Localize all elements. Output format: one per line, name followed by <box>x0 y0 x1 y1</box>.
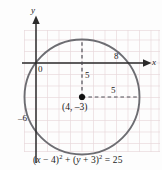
eq-plus: + <box>62 155 72 165</box>
center-coordinate-label: (4, –3) <box>62 103 87 113</box>
coordinate-plane-svg <box>0 0 162 170</box>
eq-minus-four: − 4 <box>41 155 56 165</box>
center-point <box>79 94 85 100</box>
x-axis-arrowhead <box>143 59 152 66</box>
x-intercept-label: 8 <box>114 52 119 61</box>
horizontal-radius-label: 5 <box>111 86 116 95</box>
circle-graph-figure: x y 0 8 –6 5 5 (4, –3) (x − 4)2 + (y + 3… <box>0 0 162 170</box>
vertical-radius-label: 5 <box>85 71 90 80</box>
x-axis-label: x <box>152 58 156 67</box>
y-axis-label: y <box>31 6 35 15</box>
origin-label: 0 <box>38 65 43 74</box>
y-intercept-label: –6 <box>18 114 27 123</box>
y-axis-arrowhead <box>32 16 39 25</box>
equation-caption: (x − 4)2 + (y + 3)2 = 25 <box>33 154 123 166</box>
eq-plus-three: + 3 <box>81 155 96 165</box>
eq-equals-25: = 25 <box>102 155 122 165</box>
